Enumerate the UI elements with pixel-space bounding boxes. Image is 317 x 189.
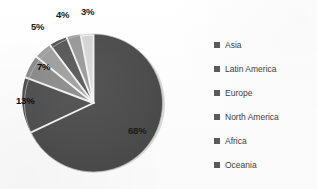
slice-value-oceania: 3% bbox=[81, 7, 94, 17]
legend-label: Latin America bbox=[225, 65, 277, 74]
legend-item-africa[interactable]: Africa bbox=[214, 129, 314, 153]
legend-swatch-icon bbox=[214, 162, 220, 168]
slice-value-north-america: 5% bbox=[31, 22, 44, 32]
legend-swatch-icon bbox=[214, 114, 220, 120]
legend-swatch-icon bbox=[214, 90, 220, 96]
legend-label: Africa bbox=[225, 137, 247, 146]
legend-item-north-america[interactable]: North America bbox=[214, 105, 314, 129]
pie-chart-plot-area: 68% 13% 7% 5% 4% 3% bbox=[0, 0, 205, 189]
legend-swatch-icon bbox=[214, 66, 220, 72]
chart-legend: Asia Latin America Europe North America … bbox=[214, 33, 314, 177]
slice-value-latin-america: 13% bbox=[16, 96, 34, 106]
legend-label: Oceania bbox=[225, 161, 257, 170]
legend-label: Asia bbox=[225, 41, 242, 50]
chart-canvas: 68% 13% 7% 5% 4% 3% Asia Latin America E… bbox=[0, 0, 317, 189]
legend-item-europe[interactable]: Europe bbox=[214, 81, 314, 105]
pie-shading-overlay bbox=[25, 34, 163, 172]
legend-swatch-icon bbox=[214, 138, 220, 144]
legend-label: Europe bbox=[225, 89, 252, 98]
legend-swatch-icon bbox=[214, 42, 220, 48]
legend-item-oceania[interactable]: Oceania bbox=[214, 153, 314, 177]
slice-value-asia: 68% bbox=[128, 126, 146, 136]
legend-item-asia[interactable]: Asia bbox=[214, 33, 314, 57]
slice-value-europe: 7% bbox=[37, 62, 50, 72]
legend-item-latin-america[interactable]: Latin America bbox=[214, 57, 314, 81]
legend-label: North America bbox=[225, 113, 279, 122]
slice-value-africa: 4% bbox=[56, 10, 69, 20]
